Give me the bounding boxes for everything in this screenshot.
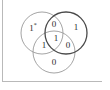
left-only-asterisk: * <box>34 22 37 28</box>
left-only-region-label: 1* <box>29 22 37 33</box>
venn-diagram-figure: 1* 0 1 1 1 0 0 <box>0 0 110 90</box>
bottom-only-value: 0 <box>52 57 57 67</box>
bottom-only-region-label: 0 <box>52 58 57 67</box>
left-right-value: 0 <box>52 19 57 29</box>
center-intersection-label: 1 <box>54 34 59 43</box>
right-only-region-label: 1 <box>74 23 79 32</box>
right-bottom-value: 0 <box>66 40 71 50</box>
left-right-intersection-label: 0 <box>52 20 57 29</box>
left-bottom-intersection-label: 1 <box>42 41 47 50</box>
venn-circles-svg <box>0 0 110 90</box>
right-only-value: 1 <box>74 22 79 32</box>
center-value: 1 <box>54 33 59 43</box>
right-bottom-intersection-label: 0 <box>66 41 71 50</box>
left-bottom-value: 1 <box>42 40 47 50</box>
